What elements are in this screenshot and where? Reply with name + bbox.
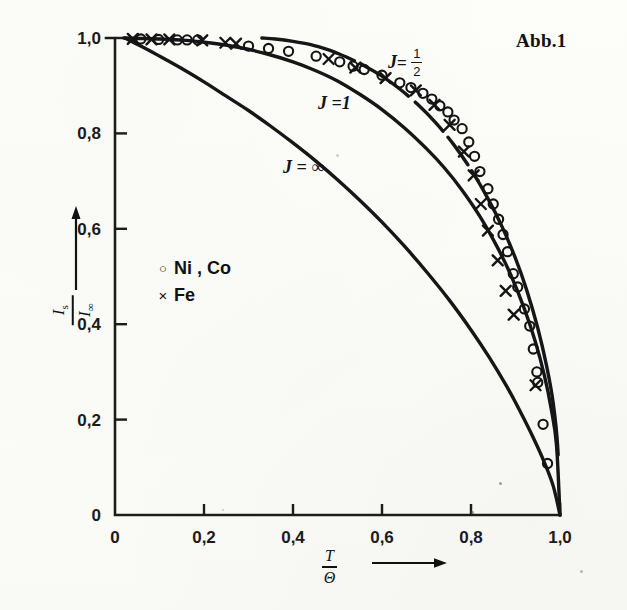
data-point-circle (284, 47, 293, 56)
fraction-bar (411, 62, 422, 64)
y-tick-label: 1,0 (77, 29, 101, 48)
legend-item-ni-co: ○ Ni , Co (152, 255, 231, 282)
data-point-circle (395, 78, 404, 87)
y-tick-label: 0 (92, 506, 101, 525)
data-point-circle (470, 152, 479, 161)
data-point-circle (464, 137, 473, 146)
cross-marker-icon: × (152, 287, 174, 304)
x-fraction-bar (322, 566, 337, 568)
x-tick-label: 0,6 (370, 528, 394, 547)
x-axis-ticks (204, 504, 471, 515)
x-tick-label: 0,4 (281, 528, 305, 547)
data-point-cross (531, 380, 541, 390)
y-fraction: Is I∞ (50, 295, 96, 325)
j-infinity-label: J = ∞ (283, 157, 324, 178)
y-tick-label: 0,2 (77, 411, 101, 430)
y-tick-label: 0,8 (77, 124, 101, 143)
y-denominator: I∞ (76, 303, 96, 317)
x-numerator: T (325, 548, 334, 564)
data-point-cross (493, 255, 503, 265)
scan-speck (336, 154, 339, 157)
data-point-circle (312, 52, 321, 61)
y-tick-label: 0,6 (77, 220, 101, 239)
x-denominator: Θ (324, 570, 336, 586)
y-axis-ticks (115, 38, 127, 420)
x-tick-label: 1,0 (548, 528, 572, 547)
data-point-cross (476, 199, 486, 209)
data-point-cross (509, 310, 519, 320)
data-point-cross (501, 286, 511, 296)
j-symbol-half: J (388, 52, 397, 72)
y-fraction-bar (72, 295, 74, 325)
scan-speck (499, 482, 502, 485)
data-point-cross (430, 100, 440, 110)
data-point-circle (503, 247, 512, 256)
y-tick-labels: 00,20,40,60,81,0 (77, 29, 101, 525)
x-fraction: T Θ (322, 548, 337, 586)
curve-j-1-2 (262, 38, 560, 515)
data-point-circle (458, 124, 467, 133)
figure-title: Abb.1 (516, 30, 567, 52)
one-half-fraction: 1 2 (411, 47, 422, 78)
fraction-denominator: 2 (411, 65, 422, 78)
x-tick-labels: 00,20,40,60,81,0 (110, 528, 572, 547)
fraction-numerator: 1 (411, 47, 422, 60)
data-point-circle (538, 420, 547, 429)
legend-label-fe: Fe (174, 285, 195, 306)
y-numerator: Is (50, 305, 70, 315)
data-point-cross (324, 54, 334, 64)
legend-label-ni-co: Ni , Co (174, 258, 231, 279)
x-tick-label: 0,2 (192, 528, 216, 547)
data-point-circle (532, 367, 541, 376)
scan-speck (580, 570, 583, 573)
x-axis-label: T Θ (322, 548, 337, 586)
data-point-circle (443, 107, 452, 116)
x-tick-label: 0 (110, 528, 119, 547)
y-axis-label: Is I∞ (50, 295, 96, 325)
scan-speck (471, 511, 474, 514)
legend-item-fe: × Fe (152, 282, 231, 309)
data-point-circle (335, 57, 344, 66)
axis-label-arrows (72, 206, 448, 568)
j-one-half-label: J= 1 2 (388, 48, 422, 79)
eq-half: = (397, 53, 407, 71)
data-point-circle (483, 184, 492, 193)
circle-marker-icon: ○ (152, 261, 174, 276)
legend: ○ Ni , Co × Fe (152, 255, 231, 309)
figure-container: 00,20,40,60,81,0 00,20,40,60,81,0 Abb.1 … (0, 0, 627, 610)
data-point-circle (264, 44, 273, 53)
x-tick-label: 0,8 (459, 528, 483, 547)
j-one-label: J =1 (318, 93, 351, 114)
